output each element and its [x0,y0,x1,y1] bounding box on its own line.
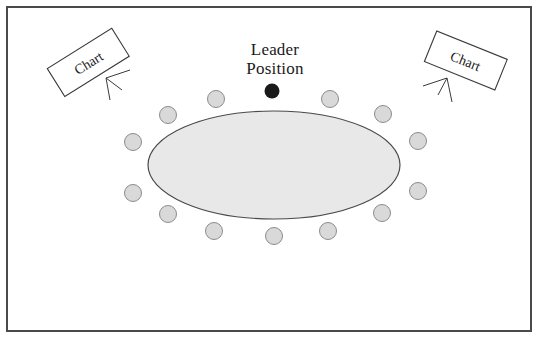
leader-position-label-line1: Leader [205,40,345,59]
seat-marker[interactable] [320,223,337,240]
leader-position-label-line2: Position [205,59,345,78]
easel-left[interactable]: Chart [47,28,130,100]
seat-marker[interactable] [206,223,223,240]
seat-marker[interactable] [410,133,427,150]
seat-marker[interactable] [125,134,142,151]
easel-left-legs-icon [106,70,130,100]
seat-marker[interactable] [374,205,391,222]
seat-marker[interactable] [266,228,283,245]
leader-position-marker[interactable] [265,84,280,99]
seat-marker[interactable] [125,185,142,202]
seat-marker[interactable] [160,206,177,223]
easel-right[interactable]: Chart [423,31,507,102]
leader-position-label: Leader Position [205,40,345,78]
seat-marker[interactable] [160,107,177,124]
diagram-canvas: Chart Chart Leader Position [0,0,540,341]
seat-marker[interactable] [410,183,427,200]
seat-marker[interactable] [375,106,392,123]
seat-marker[interactable] [322,91,339,108]
conference-table [148,111,400,219]
easel-right-legs-icon [423,78,452,102]
seat-marker[interactable] [208,91,225,108]
